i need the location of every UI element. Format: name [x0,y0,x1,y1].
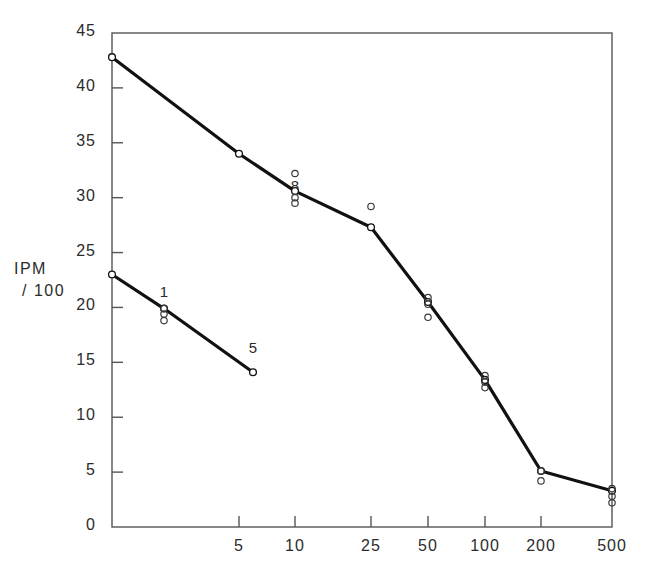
scatter-markers [161,170,615,506]
axis-frame [112,33,612,527]
series-line [112,57,612,491]
scatter-point-marker [368,203,374,209]
plot-area [0,0,649,572]
scatter-point-marker [161,317,167,323]
axis-frame-box [112,33,612,527]
series-markers [109,54,616,494]
x-axis-ticks [239,516,541,527]
series-line [112,275,253,373]
scatter-point-marker [538,478,544,484]
scatter-point-marker [425,314,431,320]
series-lines [112,57,612,491]
series-point-marker [250,369,257,376]
chart-container: IPM / 100 051015202530354045 51025501002… [0,0,649,572]
series-point-marker [109,271,116,278]
series-point-marker [109,54,116,61]
series-point-marker [292,188,299,195]
scatter-point-marker [292,170,298,176]
series-point-marker [368,224,375,231]
series-point-marker [236,150,243,157]
